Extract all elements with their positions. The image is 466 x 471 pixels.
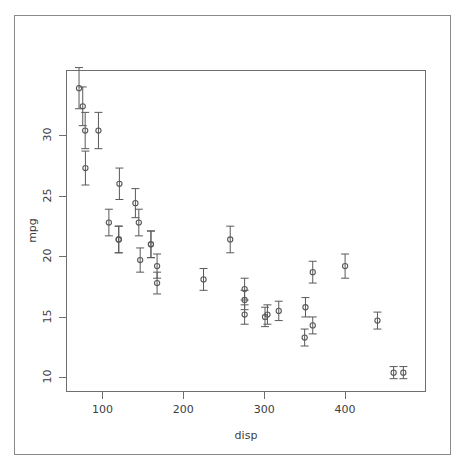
- x-tick-label: 300: [252, 404, 276, 415]
- y-tick-mark: [59, 135, 66, 136]
- x-tick-label: 200: [171, 404, 195, 415]
- y-tick-label: 30: [42, 128, 53, 142]
- y-tick-label: 25: [42, 188, 53, 202]
- x-tick-mark: [345, 392, 346, 399]
- x-axis-title: disp: [226, 430, 266, 441]
- y-tick-label: 15: [42, 309, 53, 323]
- plot-panel-box: [66, 70, 426, 392]
- x-tick-label: 100: [90, 404, 114, 415]
- y-tick-mark: [59, 256, 66, 257]
- x-tick-mark: [183, 392, 184, 399]
- y-axis-title: mpg: [27, 211, 38, 251]
- x-tick-mark: [102, 392, 103, 399]
- y-tick-mark: [59, 196, 66, 197]
- x-tick-label: 400: [333, 404, 357, 415]
- y-tick-label: 20: [42, 249, 53, 263]
- y-tick-mark: [59, 377, 66, 378]
- x-tick-mark: [264, 392, 265, 399]
- y-tick-mark: [59, 317, 66, 318]
- plot-figure: 1002003004001015202530 disp mpg: [0, 0, 466, 471]
- y-tick-label: 10: [42, 370, 53, 384]
